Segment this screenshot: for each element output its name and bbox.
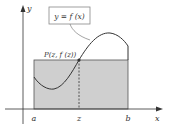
x-axis-arrow-icon [156, 107, 163, 112]
y-axis-label: y [26, 4, 32, 13]
point-label: P(z, f (z)) [43, 51, 77, 59]
tick-b: b [125, 114, 130, 123]
mean-value-theorem-diagram: y = f (x) P(z, f (z)) y x a z b [0, 0, 173, 126]
tick-z: z [76, 114, 82, 123]
function-label-leader [70, 24, 90, 40]
mean-value-rectangle [34, 60, 128, 109]
function-label: y = f (x) [53, 12, 85, 21]
point-p [77, 58, 80, 61]
tick-a: a [32, 114, 37, 123]
x-axis-label: x [155, 114, 160, 123]
y-axis-arrow-icon [21, 5, 26, 12]
